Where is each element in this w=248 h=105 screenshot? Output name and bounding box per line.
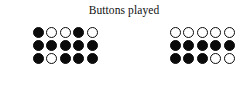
filled-circle-icon (46, 40, 57, 51)
filled-circle-icon (73, 40, 84, 51)
open-circle-icon (197, 27, 208, 38)
open-circle-icon (210, 27, 221, 38)
open-circle-icon (210, 53, 221, 64)
filled-circle-icon (73, 27, 84, 38)
open-circle-icon (224, 27, 235, 38)
filled-circle-icon (33, 40, 44, 51)
filled-circle-icon (87, 53, 98, 64)
open-circle-icon (46, 27, 57, 38)
filled-circle-icon (183, 53, 194, 64)
open-circle-icon (183, 27, 194, 38)
open-circle-icon (170, 27, 181, 38)
filled-circle-icon (73, 53, 84, 64)
filled-circle-icon (60, 40, 71, 51)
filled-circle-icon (197, 53, 208, 64)
open-circle-icon (46, 53, 57, 64)
filled-circle-icon (170, 53, 181, 64)
filled-circle-icon (33, 27, 44, 38)
open-circle-icon (224, 53, 235, 64)
filled-circle-icon (183, 40, 194, 51)
filled-circle-icon (33, 53, 44, 64)
page-title: Buttons played (0, 3, 248, 17)
filled-circle-icon (197, 40, 208, 51)
buttons-played-figure: Buttons played (0, 0, 248, 105)
filled-circle-icon (224, 40, 235, 51)
filled-circle-icon (60, 53, 71, 64)
filled-circle-icon (87, 40, 98, 51)
open-circle-icon (60, 27, 71, 38)
open-circle-icon (87, 27, 98, 38)
filled-circle-icon (170, 40, 181, 51)
filled-circle-icon (210, 40, 221, 51)
